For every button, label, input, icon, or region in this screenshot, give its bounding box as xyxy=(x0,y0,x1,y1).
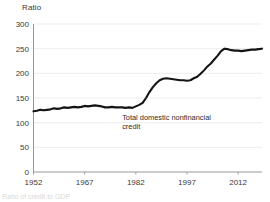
annotation-line: credit xyxy=(122,122,140,131)
x-tick-label: 1952 xyxy=(25,178,43,187)
x-tick-label: 2012 xyxy=(229,178,247,187)
x-tick-label: 1982 xyxy=(127,178,145,187)
footnote-text: Ratio of credit to GDP xyxy=(2,193,70,200)
y-tick-label: 200 xyxy=(16,69,30,78)
x-tick-label: 1997 xyxy=(178,178,196,187)
chart-screenshot: Ratio 050100150200250300 195219671982199… xyxy=(0,0,270,202)
y-tick-label: 250 xyxy=(16,45,30,54)
annotation-line: Total domestic nonfinancial xyxy=(122,113,211,122)
y-tick-label: 100 xyxy=(16,119,30,128)
y-tick-label: 0 xyxy=(25,168,30,177)
y-tick-label: 50 xyxy=(20,143,29,152)
y-tick-label: 150 xyxy=(16,94,30,103)
gridlines xyxy=(34,24,263,147)
x-tick-label: 1967 xyxy=(76,178,94,187)
chart-annotations: Total domestic nonfinancialcredit xyxy=(122,113,211,131)
line-chart: 050100150200250300 19521967198219972012 … xyxy=(0,0,270,202)
y-tick-label: 300 xyxy=(16,20,30,29)
series-line-total-domestic-nonfinancial-credit xyxy=(34,49,263,112)
y-axis-ticks: 050100150200250300 xyxy=(16,20,30,177)
x-axis-ticks: 19521967198219972012 xyxy=(25,172,248,187)
